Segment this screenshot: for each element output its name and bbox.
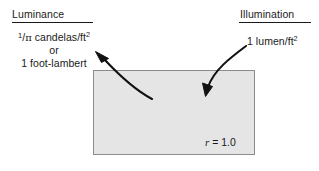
luminance-value-line-3: 1 foot-lambert	[8, 57, 100, 70]
reflectance-label: r = 1.0	[205, 136, 236, 148]
luminance-heading-underline	[12, 22, 93, 23]
luminance-unit-text: candelas/ft	[32, 31, 86, 43]
luminance-value-label: 1/π candelas/ft2 or 1 foot-lambert	[8, 31, 100, 70]
reflectance-equals: =	[209, 136, 221, 148]
reflectance-value: 1.0	[221, 136, 236, 148]
luminance-value-line-1: 1/π candelas/ft2	[8, 31, 100, 44]
luminance-unit-exponent: 2	[86, 30, 90, 39]
luminance-illumination-figure: Luminance Illumination 1/π candelas/ft2 …	[0, 0, 319, 171]
illumination-unit-text: 1 lumen/ft	[247, 35, 294, 47]
luminance-heading: Luminance	[12, 8, 64, 20]
illumination-heading-underline	[239, 22, 311, 23]
illumination-value-label: 1 lumen/ft2	[247, 35, 298, 48]
illumination-unit-exponent: 2	[294, 34, 298, 43]
illumination-heading: Illumination	[240, 8, 294, 20]
pi-symbol: π	[25, 32, 32, 43]
luminance-value-line-2: or	[8, 44, 100, 57]
